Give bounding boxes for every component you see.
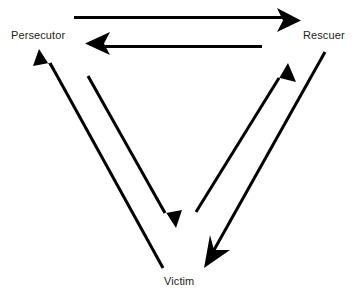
- edge-rescuer-to-victim-line: [214, 52, 325, 250]
- edge-victim-to-rescuer-line: [196, 78, 279, 212]
- node-label-rescuer: Rescuer: [303, 29, 345, 41]
- edge-persecutor-to-victim-line: [88, 76, 165, 213]
- edge-rescuer-to-victim: [204, 52, 325, 268]
- edge-rescuer-to-persecutor: [85, 32, 262, 55]
- edge-victim-to-rescuer: [196, 63, 296, 212]
- edge-persecutor-to-victim: [88, 76, 182, 228]
- diagram-canvas: Persecutor Rescuer Victim: [0, 0, 357, 299]
- edge-rescuer-to-victim-arrowhead: [204, 235, 230, 268]
- node-label-persecutor: Persecutor: [11, 29, 65, 41]
- edge-persecutor-to-rescuer: [74, 8, 301, 32]
- edge-victim-to-persecutor-line: [50, 63, 163, 268]
- edge-victim-to-persecutor-arrowhead: [33, 49, 57, 77]
- edge-rescuer-to-persecutor-arrowhead: [85, 32, 110, 55]
- node-label-victim: Victim: [164, 275, 194, 287]
- drama-triangle-graphic: [0, 0, 357, 299]
- edge-victim-to-persecutor: [33, 49, 163, 268]
- edge-persecutor-to-rescuer-arrowhead: [277, 8, 301, 32]
